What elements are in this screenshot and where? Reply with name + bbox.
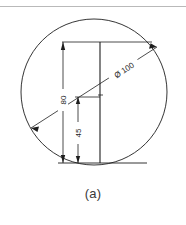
outer-circle	[21, 19, 167, 165]
dimension-80-label: 80	[59, 95, 68, 104]
diameter-leader-line	[31, 47, 157, 128]
dimension-80-arrow-top	[61, 42, 65, 50]
figure-root: 80 45 Ø 100 (a)	[0, 0, 186, 225]
dimension-45-arrow-bottom	[76, 156, 80, 163]
figure-caption: (a)	[0, 186, 186, 201]
dimension-45-label: 45	[74, 128, 83, 137]
dimension-45-arrow-top	[76, 97, 80, 104]
